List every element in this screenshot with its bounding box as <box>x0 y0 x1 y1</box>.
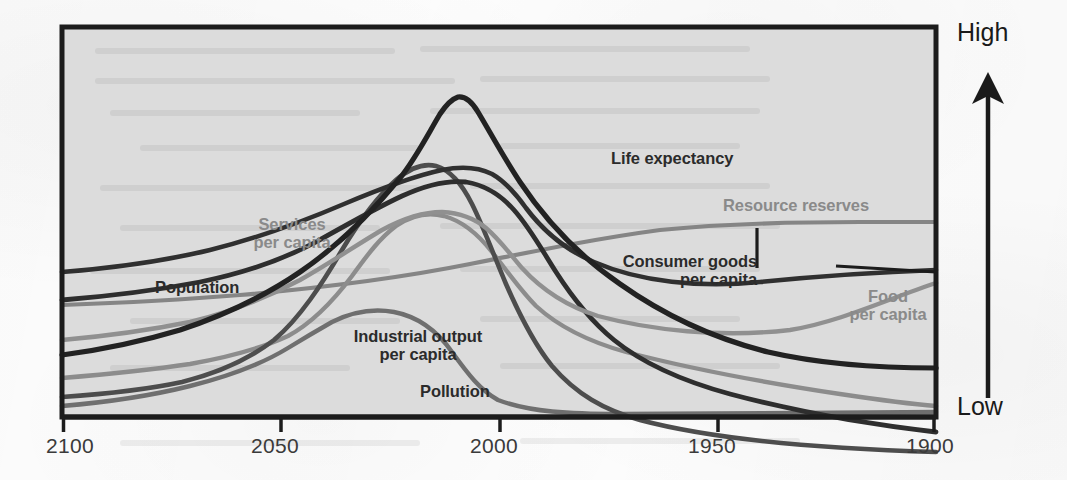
x-axis <box>62 417 936 432</box>
series-label-food-line1: Food <box>868 287 908 305</box>
series-label-services-line1: Services <box>258 215 325 233</box>
series-label-food-per-capita: Food per capita <box>838 287 938 324</box>
x-axis-label-2000: 2000 <box>470 434 518 458</box>
limits-to-growth-line-chart <box>0 0 1067 480</box>
y-axis-low-label: Low <box>957 392 1003 421</box>
x-axis-label-2050: 2050 <box>251 434 299 458</box>
x-axis-label-1900: 1900 <box>906 434 954 458</box>
x-axis-label-1950: 1950 <box>688 434 736 458</box>
series-label-population: Population <box>155 278 239 296</box>
y-axis-direction-arrow-icon <box>972 72 1004 398</box>
series-label-pollution: Pollution <box>420 382 490 400</box>
series-label-consumer-goods-per-capita: Consumer goods per capita <box>592 252 757 289</box>
series-label-services-line2: per capita <box>254 233 331 251</box>
series-label-services-per-capita: Services per capita <box>236 215 348 252</box>
y-axis-high-label: High <box>957 18 1008 47</box>
series-label-industrial-line2: per capita <box>380 345 457 363</box>
series-label-life-expectancy: Life expectancy <box>611 149 733 167</box>
x-axis-label-2100: 2100 <box>46 434 94 458</box>
series-label-industrial-line1: Industrial output <box>354 327 482 345</box>
series-label-resource-reserves: Resource reserves <box>723 196 869 214</box>
series-label-consumer-goods-line1: Consumer goods <box>623 252 757 270</box>
series-label-consumer-goods-line2: per capita <box>680 270 757 288</box>
series-label-food-line2: per capita <box>850 305 927 323</box>
chart-root: 2100 2050 2000 1950 1900 High Low Life e… <box>0 0 1067 480</box>
series-label-industrial-output-per-capita: Industrial output per capita <box>338 327 498 364</box>
